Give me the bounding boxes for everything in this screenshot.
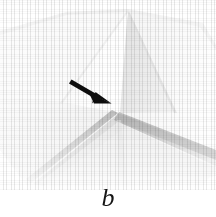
- folded-paper-photo: [0, 0, 216, 190]
- photo-left-fade: [0, 0, 60, 190]
- figure-caption-label: b: [0, 183, 216, 213]
- folded-paper-illustration: [0, 0, 216, 190]
- figure-container: b: [0, 0, 216, 217]
